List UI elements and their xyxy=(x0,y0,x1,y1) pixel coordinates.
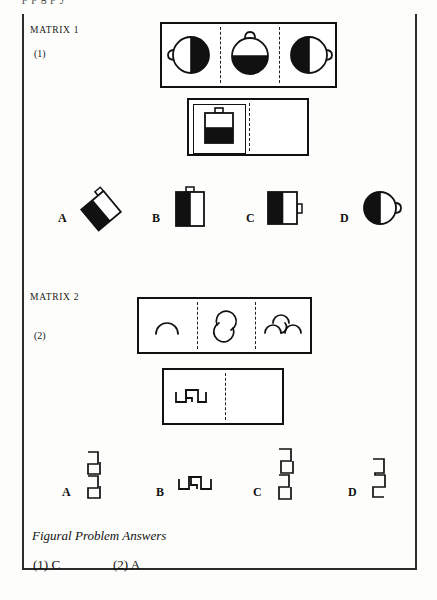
matrix-1-row-2-cell-2-empty xyxy=(249,100,311,154)
matrix-2-row-1-box xyxy=(137,297,312,354)
matrix-1-problem-number: (1) xyxy=(34,48,46,59)
matrix-1-option-c-letter: C xyxy=(246,211,255,226)
matrix-2-cell-2 xyxy=(197,299,255,352)
matrix-2-row-2-cell-2-empty xyxy=(225,370,286,423)
circle-handle-top-bottom-black-icon xyxy=(224,30,276,80)
matrix-2-option-a-letter: A xyxy=(62,485,71,500)
matrix-1-row-2-cell-1 xyxy=(189,100,249,154)
matrix-2-label: MATRIX 2 xyxy=(30,292,79,302)
matrix-1-cell-1 xyxy=(162,24,220,86)
single-arc-icon xyxy=(146,310,190,342)
matrix-2-row-2-box xyxy=(162,368,284,425)
circle-bag-handle-right-left-black-icon xyxy=(357,186,407,230)
matrix-2-option-b-letter: B xyxy=(156,485,164,500)
double-arc-s-curve-icon xyxy=(205,306,247,346)
matrix-1-option-a-shape[interactable] xyxy=(74,180,130,236)
matrix-1-option-b-letter: B xyxy=(152,211,160,226)
matrix-1-option-b-shape[interactable] xyxy=(169,184,215,234)
answers-section-title: Figural Problem Answers xyxy=(32,528,166,544)
triple-arc-wave-icon xyxy=(259,311,311,341)
square-bag-handle-top-bottom-black-icon xyxy=(197,104,241,150)
page-border-right xyxy=(415,14,417,570)
matrix-2-option-a-shape[interactable] xyxy=(82,448,112,504)
circle-handle-right-left-black-icon xyxy=(283,31,335,79)
matrix-1-option-c-shape[interactable] xyxy=(262,186,310,232)
matrix-1-cell-3 xyxy=(279,24,339,86)
matrix-2-option-b-shape[interactable] xyxy=(175,473,221,499)
bracket-step-shape-icon xyxy=(172,384,218,410)
vertical-double-bracket-zigzag-icon xyxy=(82,448,112,504)
square-bag-handle-right-left-black-icon xyxy=(262,186,310,232)
matrix-1-row-2-box xyxy=(187,98,309,156)
matrix-2-option-d-letter: D xyxy=(348,485,357,500)
matrix-1-cell-2 xyxy=(220,24,279,86)
answer-entry-1: (1) C xyxy=(33,557,60,573)
matrix-2-option-d-shape[interactable] xyxy=(367,455,397,501)
vertical-short-bracket-zigzag-icon xyxy=(367,455,397,501)
matrix-2-row-2-cell-1 xyxy=(164,370,225,423)
page-border-bottom xyxy=(22,568,416,570)
matrix-2-problem-number: (2) xyxy=(34,330,46,341)
matrix-1-option-d-letter: D xyxy=(340,211,349,226)
matrix-1-label: MATRIX 1 xyxy=(30,25,79,35)
booklet-page: p p g p y MATRIX 1 (1) xyxy=(0,0,437,600)
matrix-1-option-d-shape[interactable] xyxy=(357,186,407,230)
matrix-2-option-c-letter: C xyxy=(253,485,262,500)
vertical-tall-bracket-zigzag-icon xyxy=(273,445,303,505)
matrix-2-option-c-shape[interactable] xyxy=(273,445,303,505)
matrix-1-option-a-letter: A xyxy=(58,211,67,226)
circle-handle-left-white-right-black-icon xyxy=(165,31,217,79)
matrix-2-cell-1 xyxy=(139,299,197,352)
cut-off-header-line: p p g p y xyxy=(22,0,422,3)
rotated-square-bag-left-black-icon xyxy=(74,180,130,236)
page-border-left xyxy=(22,14,24,570)
matrix-1-row-1-box xyxy=(160,22,337,88)
horizontal-bracket-step-icon xyxy=(175,473,221,499)
tall-rect-bag-handle-top-left-black-icon xyxy=(169,184,215,234)
cut-off-header-text: p p g p y xyxy=(0,0,437,14)
answer-entry-2: (2) A xyxy=(113,557,140,573)
matrix-2-cell-3 xyxy=(255,299,314,352)
